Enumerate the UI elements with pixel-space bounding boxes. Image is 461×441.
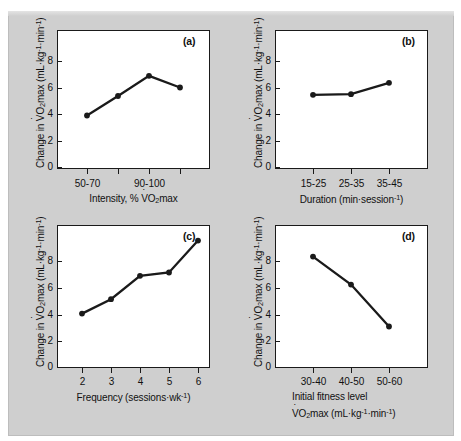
panel-c-series [0, 215, 230, 441]
panel-c: (c) Change in VO2max (mL·kg-1·min-1) 8 6… [0, 215, 230, 441]
panel-b: (b) Change in VO2max (mL·kg-1·min-1) 8 6… [230, 0, 461, 215]
panel-d-series [230, 215, 461, 441]
figure-root: (a) Change in VO2max (mL·kg-1·min-1) 8 6… [0, 0, 461, 441]
panel-a: (a) Change in VO2max (mL·kg-1·min-1) 8 6… [0, 0, 230, 215]
panel-b-series [230, 0, 461, 215]
panel-a-series [0, 0, 230, 215]
panel-d: (d) Change in VO2max (mL·kg-1·min-1) 8 6… [230, 215, 461, 441]
